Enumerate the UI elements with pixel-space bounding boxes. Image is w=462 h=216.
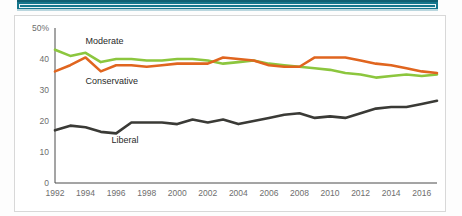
y-tick-label: 20 <box>40 116 50 126</box>
series-label-liberal: Liberal <box>112 135 139 145</box>
top-teal-banner-inner <box>19 4 436 8</box>
x-tick-label: 2014 <box>382 188 401 198</box>
y-tick-label: 30 <box>40 85 50 95</box>
x-tick-label: 2008 <box>290 188 309 198</box>
y-tick-label: 50% <box>32 23 49 33</box>
x-tick-label: 2000 <box>168 188 187 198</box>
x-tick-label: 1992 <box>46 188 65 198</box>
line-chart: 01020304050% 199219941996199820002002200… <box>15 16 447 213</box>
x-tick-label: 1998 <box>137 188 156 198</box>
x-tick-label: 2002 <box>198 188 217 198</box>
x-tick-label: 2004 <box>229 188 248 198</box>
x-tick-label: 2006 <box>259 188 278 198</box>
series-label-moderate: Moderate <box>86 36 124 46</box>
y-tick-label: 10 <box>40 147 50 157</box>
y-tick-label: 40 <box>40 54 50 64</box>
y-tick-label: 0 <box>44 178 49 188</box>
top-teal-banner <box>17 0 438 11</box>
screenshot-root: 01020304050% 199219941996199820002002200… <box>0 0 462 216</box>
x-tick-label: 1996 <box>107 188 126 198</box>
x-tick-label: 2016 <box>412 188 431 198</box>
chart-series-lines <box>55 50 437 134</box>
x-tick-label: 1994 <box>76 188 95 198</box>
x-tick-label: 2012 <box>351 188 370 198</box>
series-label-conservative: Conservative <box>86 76 139 86</box>
chart-figure-card: 01020304050% 199219941996199820002002200… <box>14 15 446 212</box>
x-axis-tick-labels: 1992199419961998200020022004200620082010… <box>46 188 432 198</box>
x-tick-label: 2010 <box>321 188 340 198</box>
y-axis-tick-labels: 01020304050% <box>32 23 49 188</box>
series-line-liberal <box>55 101 437 134</box>
